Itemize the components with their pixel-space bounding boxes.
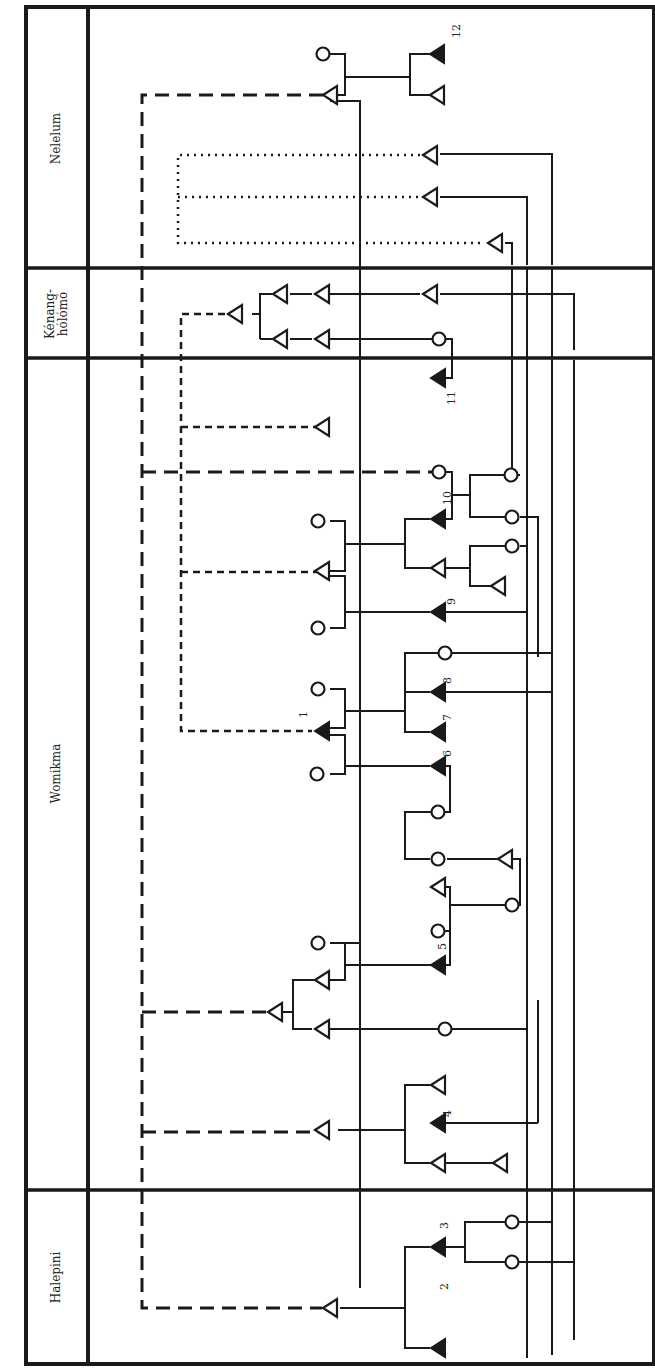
- diagram-canvas: 12 11 10 9 8 7 6 1 5 4 3 2: [0, 0, 655, 1370]
- female-symbol: [312, 622, 325, 635]
- label-12: 12: [450, 24, 463, 38]
- label-5: 5: [436, 943, 449, 950]
- male-symbol: [423, 285, 437, 303]
- female-symbol: [506, 540, 519, 553]
- female-symbol: [432, 806, 445, 819]
- male-symbol: [268, 1003, 282, 1021]
- female-symbol: [506, 899, 519, 912]
- male-symbol: [430, 86, 444, 104]
- male-symbol: [315, 562, 329, 580]
- male-symbol: [431, 1154, 445, 1172]
- female-symbol: [439, 647, 452, 660]
- female-symbol: [506, 1256, 519, 1269]
- label-1: 1: [297, 711, 310, 718]
- male-symbol: [323, 1299, 337, 1317]
- male-filled-symbol: [431, 510, 445, 528]
- male-symbol: [315, 971, 329, 989]
- female-symbol: [312, 515, 325, 528]
- female-symbol: [439, 1023, 452, 1036]
- frame: [26, 7, 654, 1364]
- label-2: 2: [438, 1283, 451, 1290]
- female-symbol: [506, 1216, 519, 1229]
- male-filled-symbol: [431, 369, 445, 387]
- label-3: 3: [438, 1222, 451, 1229]
- female-symbol: [433, 466, 446, 479]
- female-symbol: [312, 937, 325, 950]
- label-8: 8: [441, 677, 454, 684]
- male-filled-symbol: [431, 1339, 445, 1357]
- male-symbol: [431, 878, 445, 896]
- male-symbol: [315, 1121, 329, 1139]
- male-symbol: [315, 285, 329, 303]
- label-11: 11: [445, 391, 458, 405]
- label-6: 6: [441, 750, 454, 757]
- male-filled-symbol: [431, 1238, 445, 1256]
- male-symbol: [273, 330, 287, 348]
- male-symbol: [315, 1020, 329, 1038]
- female-symbol: [311, 768, 324, 781]
- short-dash-lines: [181, 314, 316, 731]
- male-filled-symbol: [431, 723, 445, 741]
- female-symbol: [432, 925, 445, 938]
- male-symbol: [498, 850, 512, 868]
- label-7: 7: [441, 714, 454, 721]
- male-filled-symbol: [431, 603, 445, 621]
- male-symbol: [493, 1154, 507, 1172]
- male-filled-symbol: [431, 683, 445, 701]
- male-symbol: [228, 305, 242, 323]
- male-symbol: [491, 577, 505, 595]
- male-symbol: [423, 188, 437, 206]
- female-symbol: [506, 511, 519, 524]
- label-4: 4: [441, 1110, 454, 1117]
- male-symbol: [315, 330, 329, 348]
- kinship-diagram: Nelelum Kénang- hólómó Womikma Halepini: [0, 0, 655, 1370]
- female-symbol: [433, 333, 446, 346]
- male-symbol: [431, 559, 445, 577]
- solid-lines: [252, 54, 574, 1358]
- male-filled-symbol: [315, 722, 329, 740]
- male-symbol: [423, 146, 437, 164]
- label-10: 10: [441, 491, 454, 505]
- male-symbol: [431, 1076, 445, 1094]
- female-symbol: [317, 48, 330, 61]
- male-symbol: [315, 418, 329, 436]
- female-symbol: [505, 469, 518, 482]
- label-9: 9: [445, 598, 458, 605]
- number-labels: 12 11 10 9 8 7 6 1 5 4 3 2: [297, 24, 463, 1290]
- male-symbol: [488, 234, 502, 252]
- male-filled-symbol: [431, 956, 445, 974]
- male-symbol: [273, 285, 287, 303]
- male-filled-symbol: [431, 757, 445, 775]
- female-symbol: [432, 853, 445, 866]
- long-dash-lines: [142, 95, 438, 1308]
- male-filled-symbol: [430, 45, 444, 63]
- female-symbol: [312, 683, 325, 696]
